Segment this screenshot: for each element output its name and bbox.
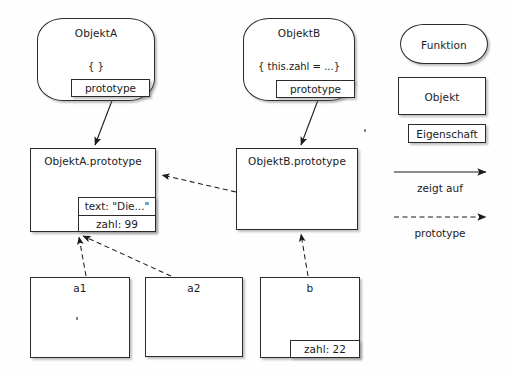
prop-objektA-prototype[interactable]: prototype	[71, 79, 150, 97]
node-a2-title: a2	[146, 282, 242, 294]
legend-objekt-label: Objekt	[399, 91, 485, 103]
edge-b-to-objektBproto	[301, 234, 308, 276]
scan-artifact-dot	[76, 317, 78, 320]
node-objektA-title: ObjektA	[38, 27, 154, 39]
node-objektB-prototype[interactable]: ObjektB.prototype	[236, 148, 358, 230]
prop-objektA-zahl[interactable]: zahl: 99	[79, 215, 155, 232]
node-objektB-body: { this.zahl = ...}	[244, 61, 354, 72]
edge-objektA-prototype-to-node	[95, 98, 113, 145]
node-objektA-prototype-title: ObjektA.prototype	[31, 155, 155, 167]
edge-a2-to-objektAproto	[83, 236, 171, 276]
prop-stack-objektA-prototype: text: "Die..." zahl: 99	[78, 197, 156, 232]
legend-eigenschaft-shape: Eigenschaft	[408, 124, 486, 143]
node-a2[interactable]: a2	[145, 277, 243, 357]
node-objektA-body: { }	[38, 61, 154, 72]
scan-artifact-dot-right	[364, 129, 366, 132]
legend-funktion-label: Funktion	[401, 39, 487, 51]
legend-zeigt-auf-label: zeigt auf	[394, 182, 486, 194]
legend-prototype-label: prototype	[394, 227, 486, 239]
edge-a1-to-objektAproto	[79, 237, 86, 276]
prop-b-zahl[interactable]: zahl: 22	[290, 340, 360, 358]
prop-objektA-text[interactable]: text: "Die..."	[79, 198, 155, 215]
edge-objektB-prototype-to-node	[301, 100, 318, 145]
edge-objektBproto-to-objektAproto	[162, 175, 236, 192]
legend-funktion-shape: Funktion	[400, 24, 488, 64]
legend-objekt-shape: Objekt	[398, 77, 486, 115]
node-b-title: b	[261, 282, 359, 294]
node-a1[interactable]: a1	[30, 277, 130, 358]
node-a1-title: a1	[31, 282, 129, 294]
diagram-canvas: ObjektA { } prototype ObjektB { this.zah…	[0, 0, 512, 378]
node-objektB-prototype-title: ObjektB.prototype	[237, 155, 357, 167]
prop-objektB-prototype[interactable]: prototype	[276, 80, 355, 98]
node-objektB-title: ObjektB	[244, 27, 354, 39]
